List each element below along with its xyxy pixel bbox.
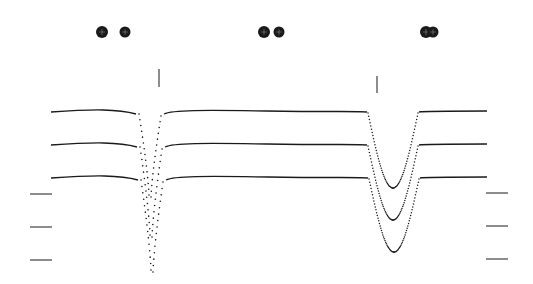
light-curve-plot (0, 0, 533, 284)
binary-star-icon-overlapping (420, 26, 439, 38)
secondary-eclipse-points (367, 145, 419, 221)
curve-segment (51, 110, 136, 114)
curve-1 (51, 110, 487, 198)
primary-eclipse-points (138, 113, 162, 198)
curve-segment (420, 177, 487, 178)
curve-segment (166, 176, 368, 180)
eclipse-markers (159, 69, 377, 93)
light-curve-figure (0, 0, 533, 284)
light-curves (51, 110, 487, 273)
secondary-eclipse-points (368, 178, 420, 253)
primary-eclipse-points (140, 179, 164, 273)
curve-segment (51, 143, 137, 147)
curve-segment (419, 144, 487, 145)
curve-segment (164, 110, 367, 114)
curve-segment (419, 111, 487, 112)
left-axis-ticks (30, 194, 52, 260)
right-axis-ticks (486, 193, 508, 259)
primary-eclipse-points (139, 146, 163, 238)
binary-star-icon-approaching (258, 26, 285, 38)
binary-star-schematics (96, 26, 439, 38)
curve-segment (165, 143, 367, 147)
curve-2 (51, 143, 487, 238)
curve-3 (51, 176, 487, 273)
curve-segment (51, 176, 138, 180)
binary-star-icon-separated (96, 26, 131, 38)
